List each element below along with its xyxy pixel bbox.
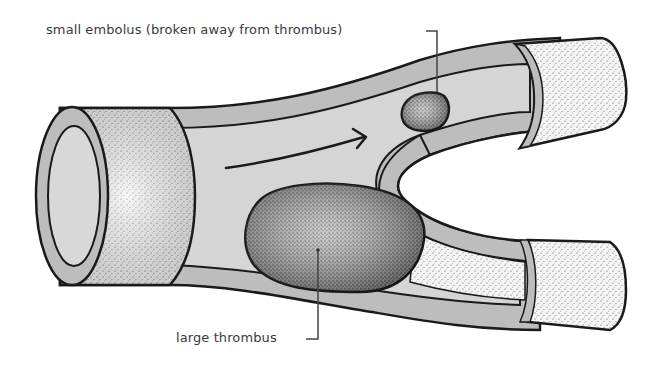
vessel-opening-lumen [48, 126, 100, 266]
embolus-label: small embolus (broken away from thrombus… [46, 22, 342, 37]
thrombus-label: large thrombus [176, 330, 277, 345]
small-embolus [402, 93, 449, 131]
large-thrombus [245, 184, 424, 292]
vessel-diagram [0, 0, 653, 368]
main-vessel-end [36, 107, 195, 285]
lower-branch-end [520, 240, 626, 330]
